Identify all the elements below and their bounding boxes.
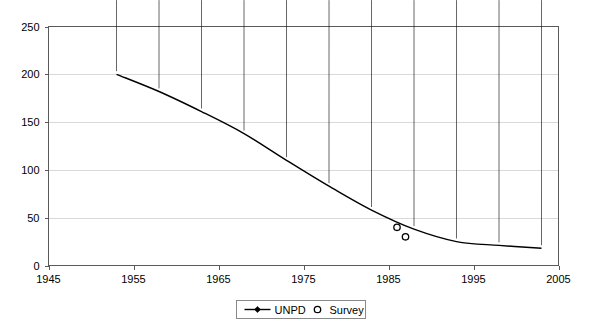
y-tick-label: 0	[33, 260, 39, 272]
x-tick-label: 1945	[36, 273, 60, 285]
y-tick-label: 100	[21, 164, 39, 176]
y-tick-label: 250	[21, 21, 39, 33]
x-tick-label: 2005	[546, 273, 570, 285]
legend-label-survey: Survey	[330, 304, 365, 316]
y-tick-label: 200	[21, 68, 39, 80]
chart-container: 050100150200250 194519551965197519851995…	[0, 0, 594, 329]
x-tick-label: 1995	[461, 273, 485, 285]
chart-legend: UNPDSurvey	[237, 301, 366, 319]
x-tick-label: 1985	[376, 273, 400, 285]
y-tick-label: 150	[21, 116, 39, 128]
x-tick-label: 1975	[291, 273, 315, 285]
line-chart: 050100150200250 194519551965197519851995…	[0, 0, 594, 329]
x-tick-label: 1965	[206, 273, 230, 285]
y-tick-label: 50	[27, 212, 39, 224]
x-tick-label: 1955	[121, 273, 145, 285]
legend-label-unpd: UNPD	[275, 304, 306, 316]
